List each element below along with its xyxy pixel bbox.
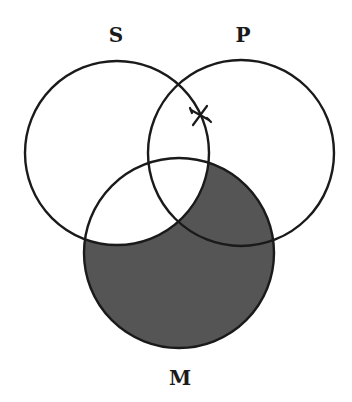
- label-p: P: [235, 23, 250, 47]
- x-mark-icon: [190, 106, 211, 125]
- label-m: M: [169, 366, 191, 390]
- label-s: S: [109, 23, 123, 47]
- venn-diagram: S P M: [0, 0, 352, 402]
- shaded-region-m-minus-s: [0, 0, 352, 402]
